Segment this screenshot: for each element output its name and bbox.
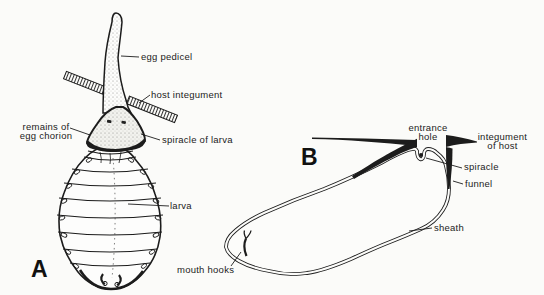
chorion-cap-shape (87, 107, 145, 151)
label-host-integument: host integument (151, 90, 222, 99)
panel-letter-b: B (301, 144, 318, 171)
label-integument-of-host: integument of host (476, 132, 529, 150)
label-entrance-hole: entrance hole (404, 123, 452, 141)
label-spiracle-of-larva: spiracle of larva (162, 135, 233, 144)
label-integument-of-host-line2: of host (476, 141, 529, 150)
label-funnel: funnel (465, 179, 492, 188)
label-larva: larva (170, 201, 192, 210)
label-sheath: sheath (434, 223, 464, 232)
diagram-svg (0, 0, 544, 295)
label-mouth-hooks: mouth hooks (177, 265, 234, 274)
label-entrance-hole-line2: hole (404, 132, 452, 141)
label-remains-of-egg-chorion: remains of egg chorion (17, 122, 75, 140)
spiracle-knob (419, 153, 423, 157)
leader-funnel (453, 181, 463, 184)
label-egg-pedicel: egg pedicel (141, 52, 192, 61)
figure-canvas: egg pedicel host integument remains of e… (0, 0, 544, 295)
sheath-outline (226, 149, 449, 274)
label-spiracle: spiracle (464, 162, 499, 171)
larva-body-shape (57, 146, 163, 289)
leader-egg-pedicel (121, 56, 139, 57)
panel-letter-a: A (31, 256, 48, 283)
label-remains-line2: egg chorion (17, 131, 75, 140)
egg-pedicel-shape (103, 13, 131, 113)
